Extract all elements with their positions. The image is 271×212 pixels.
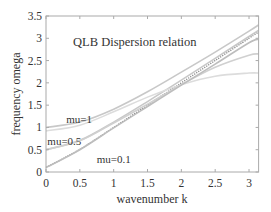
y-tick-label: 2 xyxy=(36,77,42,89)
y-tick-label: 1 xyxy=(36,121,42,133)
curve-annotation: mu=1 xyxy=(66,113,92,125)
x-tick-label: 3 xyxy=(246,177,252,189)
x-axis-label: wavenumber k xyxy=(117,192,188,206)
y-tick-label: 1.5 xyxy=(28,99,43,111)
x-tick-label: 2 xyxy=(178,177,184,189)
x-tick-label: 1.5 xyxy=(140,177,155,189)
y-tick-label: 2.5 xyxy=(28,55,43,67)
y-tick-label: 3.5 xyxy=(28,10,43,22)
curve-annotation: mu=0.5 xyxy=(47,135,82,147)
dispersion-chart: 00.511.522.53 00.511.522.533.5 QLB Dispe… xyxy=(0,0,271,212)
curve-annotation: mu=0.1 xyxy=(97,153,131,165)
x-tick-label: 1 xyxy=(111,177,117,189)
series-line xyxy=(46,32,259,167)
y-tick-label: 0.5 xyxy=(28,144,43,156)
x-tick-label: 0.5 xyxy=(73,177,88,189)
y-tick-label: 0 xyxy=(36,166,42,178)
y-tick-label: 3 xyxy=(36,32,42,44)
x-tick-label: 0 xyxy=(43,177,49,189)
x-tick-label: 2.5 xyxy=(208,177,223,189)
chart-title: QLB Dispersion relation xyxy=(73,35,197,49)
series-line xyxy=(46,39,259,167)
y-axis-label: frequency omega xyxy=(9,52,23,136)
